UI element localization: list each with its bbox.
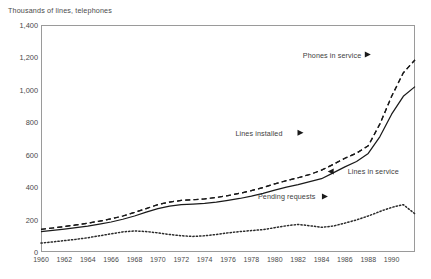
annotation-arrow-icon — [365, 52, 371, 58]
x-axis-tick-label: 1966 — [103, 256, 119, 263]
series-label-pending-requests: Pending requests — [258, 192, 316, 201]
x-axis-labels: 1960196219641966196819701972197419761978… — [0, 256, 431, 272]
x-axis-tick-label: 1972 — [173, 256, 189, 263]
series-label-phones-in-service: Phones in service — [303, 51, 361, 60]
chart-figure: Thousands of lines, telephones 020040060… — [0, 0, 431, 279]
x-axis-tick-label: 1990 — [384, 256, 400, 263]
chart-series-layer — [0, 0, 431, 279]
annotation-arrow-icon — [297, 130, 303, 136]
x-axis-tick-label: 1982 — [290, 256, 306, 263]
x-axis-tick-label: 1970 — [150, 256, 166, 263]
x-axis-tick-label: 1988 — [360, 256, 376, 263]
x-axis-tick-label: 1960 — [33, 256, 49, 263]
x-axis-tick-label: 1984 — [314, 256, 330, 263]
series-line — [41, 205, 415, 243]
x-axis-tick-label: 1978 — [244, 256, 260, 263]
series-label-lines-in-service: Lines in service — [348, 167, 399, 176]
x-axis-tick-label: 1964 — [80, 256, 96, 263]
x-axis-tick-label: 1962 — [57, 256, 73, 263]
x-axis-tick-label: 1974 — [197, 256, 213, 263]
x-axis-tick-label: 1986 — [337, 256, 353, 263]
annotation-arrow-icon — [322, 193, 328, 199]
x-axis-tick-label: 1980 — [267, 256, 283, 263]
x-axis-tick-label: 1968 — [127, 256, 143, 263]
series-line — [41, 60, 415, 229]
series-label-lines-installed: Lines installed — [235, 129, 282, 138]
x-axis-tick-label: 1976 — [220, 256, 236, 263]
series-line — [41, 60, 415, 229]
series-line — [41, 87, 415, 232]
